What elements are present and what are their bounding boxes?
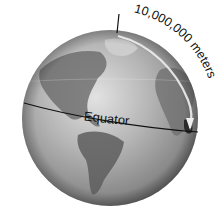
globe-figure: Equator 10,000,000 meters: [0, 0, 224, 217]
pole-marker: [117, 14, 119, 33]
earth-diagram: Equator 10,000,000 meters: [0, 0, 224, 217]
